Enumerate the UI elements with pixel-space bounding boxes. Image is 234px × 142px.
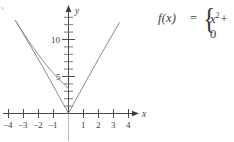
y-axis-label: y <box>74 6 80 16</box>
equals-sign: = <box>190 11 197 26</box>
x-axis-arrow-icon <box>132 111 139 117</box>
coordinate-plane-svg: −4 −3 −2 −1 1 2 3 4 10 5 y x <box>0 0 152 142</box>
parabola-curve-plot <box>15 20 119 113</box>
x-tick-label--1: −1 <box>48 120 58 130</box>
case-first-operator: + <box>220 12 228 26</box>
piecewise-case-second: 0 <box>210 25 228 44</box>
textbook-figure-page: −4 −3 −2 −1 1 2 3 4 10 5 y x f(x) = { x2… <box>0 0 234 142</box>
y-axis-arrow-icon <box>66 5 72 12</box>
parabola-curve <box>15 20 68 88</box>
x-tick-label--2: −2 <box>33 120 43 130</box>
x-tick-label-3: 3 <box>111 120 116 130</box>
parabola-graph-figure: −4 −3 −2 −1 1 2 3 4 10 5 y x <box>0 0 152 142</box>
y-tick-label-5: 5 <box>56 72 61 82</box>
piecewise-function-formula: f(x) = { x2+ 0 <box>158 4 234 50</box>
x-axis-label: x <box>141 109 147 119</box>
piecewise-case-first: x2+ <box>210 6 228 25</box>
piecewise-cases: x2+ 0 <box>210 6 228 44</box>
x-tick-label-1: 1 <box>81 120 86 130</box>
x-tick-label-4: 4 <box>126 120 131 130</box>
x-tick-label--3: −3 <box>18 120 28 130</box>
y-tick-label-10: 10 <box>51 35 61 45</box>
function-notation: f(x) <box>158 11 176 26</box>
x-tick-label--4: −4 <box>3 120 13 130</box>
case-first-exponent: 2 <box>216 11 220 20</box>
x-tick-label-2: 2 <box>96 120 101 130</box>
